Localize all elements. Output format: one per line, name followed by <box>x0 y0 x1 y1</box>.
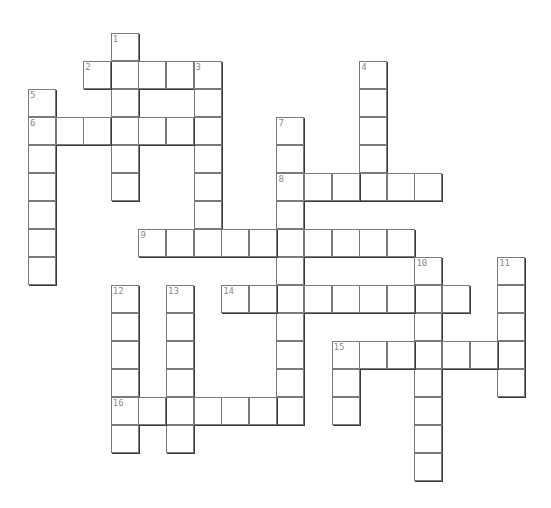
crossword-cell[interactable] <box>332 369 360 397</box>
crossword-cell[interactable] <box>387 173 415 201</box>
crossword-cell[interactable] <box>28 173 56 201</box>
crossword-cell[interactable] <box>276 229 304 257</box>
crossword-cell[interactable] <box>276 257 304 285</box>
crossword-cell[interactable] <box>111 145 139 173</box>
crossword-cell[interactable] <box>28 257 56 285</box>
crossword-cell[interactable] <box>414 453 442 481</box>
crossword-cell[interactable] <box>194 173 222 201</box>
crossword-cell[interactable] <box>111 61 139 89</box>
crossword-cell[interactable] <box>28 229 56 257</box>
crossword-cell[interactable] <box>83 117 111 145</box>
clue-number: 16 <box>113 398 124 408</box>
crossword-cell[interactable] <box>56 117 84 145</box>
crossword-cell[interactable] <box>138 117 166 145</box>
crossword-cell[interactable] <box>414 397 442 425</box>
crossword-cell[interactable] <box>194 145 222 173</box>
crossword-cell[interactable] <box>332 285 360 313</box>
crossword-cell[interactable] <box>359 117 387 145</box>
crossword-cell[interactable] <box>470 341 498 369</box>
crossword-cell[interactable] <box>414 425 442 453</box>
crossword-cell[interactable] <box>304 229 332 257</box>
crossword-cell[interactable] <box>111 341 139 369</box>
crossword-cell[interactable] <box>221 397 249 425</box>
crossword-cell[interactable] <box>497 369 525 397</box>
crossword-cell[interactable] <box>194 397 222 425</box>
crossword-cell[interactable] <box>194 89 222 117</box>
crossword-cell[interactable] <box>111 89 139 117</box>
crossword-cell[interactable] <box>414 369 442 397</box>
crossword-cell[interactable] <box>414 341 442 369</box>
crossword-cell[interactable] <box>166 61 194 89</box>
crossword-cell[interactable] <box>111 117 139 145</box>
crossword-cell[interactable] <box>166 313 194 341</box>
crossword-cell[interactable]: 11 <box>497 257 525 285</box>
crossword-cell[interactable] <box>194 201 222 229</box>
crossword-cell[interactable]: 8 <box>276 173 304 201</box>
crossword-cell[interactable] <box>304 285 332 313</box>
crossword-cell[interactable] <box>276 285 304 313</box>
crossword-cell[interactable] <box>387 229 415 257</box>
crossword-cell[interactable]: 14 <box>221 285 249 313</box>
crossword-cell[interactable] <box>249 285 277 313</box>
crossword-cell[interactable]: 5 <box>28 89 56 117</box>
crossword-cell[interactable] <box>442 341 470 369</box>
crossword-cell[interactable] <box>28 145 56 173</box>
crossword-cell[interactable] <box>359 173 387 201</box>
crossword-cell[interactable]: 2 <box>83 61 111 89</box>
crossword-cell[interactable] <box>194 117 222 145</box>
crossword-cell[interactable] <box>359 89 387 117</box>
crossword-cell[interactable] <box>138 61 166 89</box>
crossword-cell[interactable]: 15 <box>332 341 360 369</box>
crossword-cell[interactable] <box>359 229 387 257</box>
crossword-cell[interactable] <box>387 285 415 313</box>
crossword-cell[interactable] <box>111 425 139 453</box>
crossword-cell[interactable] <box>166 229 194 257</box>
crossword-cell[interactable] <box>221 229 249 257</box>
crossword-cell[interactable] <box>387 341 415 369</box>
crossword-cell[interactable] <box>359 145 387 173</box>
crossword-cell[interactable] <box>359 285 387 313</box>
crossword-cell[interactable] <box>276 369 304 397</box>
crossword-cell[interactable] <box>194 229 222 257</box>
crossword-cell[interactable] <box>166 397 194 425</box>
crossword-cell[interactable] <box>332 229 360 257</box>
crossword-cell[interactable] <box>497 341 525 369</box>
crossword-cell[interactable] <box>276 397 304 425</box>
crossword-cell[interactable]: 12 <box>111 285 139 313</box>
crossword-cell[interactable] <box>28 201 56 229</box>
crossword-cell[interactable] <box>249 397 277 425</box>
crossword-cell[interactable] <box>138 397 166 425</box>
crossword-cell[interactable]: 7 <box>276 117 304 145</box>
crossword-cell[interactable] <box>276 341 304 369</box>
crossword-cell[interactable] <box>276 313 304 341</box>
crossword-cell[interactable] <box>166 117 194 145</box>
crossword-cell[interactable] <box>414 285 442 313</box>
crossword-cell[interactable] <box>111 173 139 201</box>
crossword-cell[interactable]: 6 <box>28 117 56 145</box>
crossword-cell[interactable] <box>497 313 525 341</box>
crossword-cell[interactable] <box>414 313 442 341</box>
crossword-cell[interactable] <box>276 145 304 173</box>
crossword-cell[interactable]: 3 <box>194 61 222 89</box>
crossword-cell[interactable] <box>166 369 194 397</box>
crossword-cell[interactable] <box>166 425 194 453</box>
crossword-cell[interactable] <box>249 229 277 257</box>
crossword-cell[interactable] <box>332 173 360 201</box>
crossword-cell[interactable] <box>497 285 525 313</box>
crossword-cell[interactable] <box>276 201 304 229</box>
crossword-cell[interactable] <box>414 173 442 201</box>
crossword-cell[interactable] <box>304 173 332 201</box>
crossword-cell[interactable] <box>111 369 139 397</box>
crossword-cell[interactable]: 16 <box>111 397 139 425</box>
crossword-cell[interactable]: 1 <box>111 33 139 61</box>
crossword-cell[interactable] <box>442 285 470 313</box>
clue-number: 10 <box>416 258 427 268</box>
crossword-cell[interactable]: 13 <box>166 285 194 313</box>
crossword-cell[interactable] <box>111 313 139 341</box>
crossword-cell[interactable]: 4 <box>359 61 387 89</box>
crossword-cell[interactable] <box>166 341 194 369</box>
crossword-cell[interactable] <box>359 341 387 369</box>
crossword-cell[interactable]: 9 <box>138 229 166 257</box>
crossword-cell[interactable] <box>332 397 360 425</box>
crossword-cell[interactable]: 10 <box>414 257 442 285</box>
